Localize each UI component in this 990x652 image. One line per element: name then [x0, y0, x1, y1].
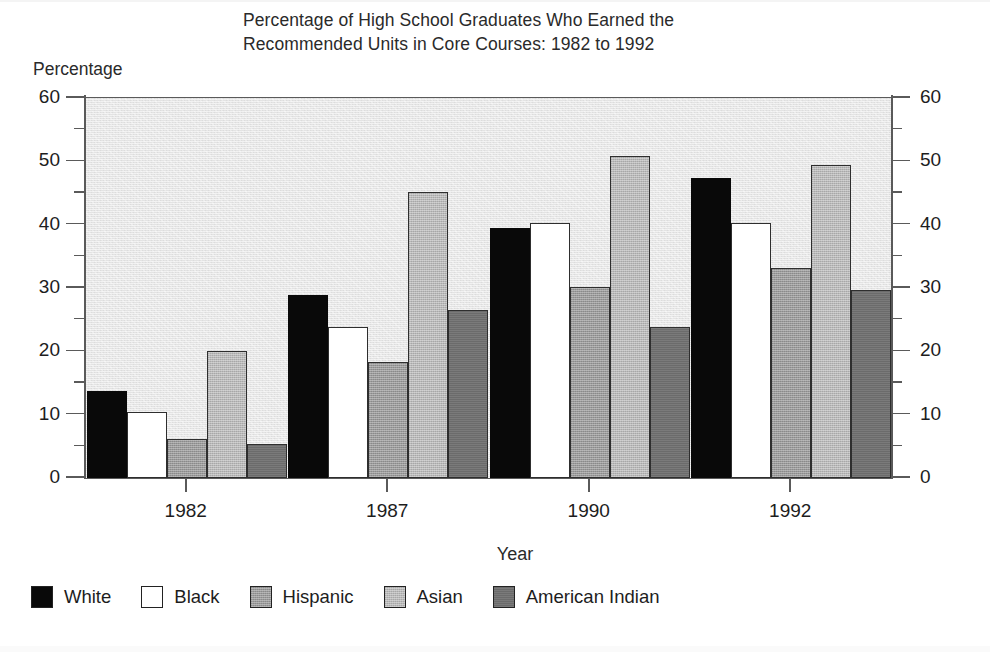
y-tick-minor-right-35	[891, 255, 902, 257]
bar-black-1982	[127, 412, 167, 478]
y-tick-label-right-10: 10	[920, 404, 941, 423]
chart-title-line-1: Percentage of High School Graduates Who …	[243, 8, 803, 32]
bars-container	[85, 98, 891, 478]
y-axis-title: Percentage	[33, 59, 123, 80]
bar-asian-1990	[610, 156, 650, 478]
y-tick-label-right-60: 60	[920, 87, 941, 106]
y-tick-minor-right-5	[891, 445, 902, 447]
bar-asian-1982	[207, 351, 247, 478]
y-tick-label-left-0: 0	[49, 467, 60, 486]
black-swatch	[31, 586, 53, 608]
y-tick-minor-right-45	[891, 191, 902, 193]
y-tick-label-left-40: 40	[39, 214, 60, 233]
y-tick-major-left-0	[66, 476, 85, 478]
y-tick-minor-right-25	[891, 318, 902, 320]
bar-black-1992	[731, 223, 771, 478]
bar-american-indian-1982	[247, 444, 287, 478]
bar-black-1987	[328, 327, 368, 478]
bar-group-1982	[87, 98, 287, 478]
bar-asian-1987	[408, 192, 448, 478]
bar-hispanic-1990	[570, 287, 610, 478]
bar-american-indian-1987	[448, 310, 488, 478]
legend-item-american-indian[interactable]: American Indian	[493, 586, 660, 608]
x-tick-label-1987: 1987	[366, 500, 408, 522]
bar-american-indian-1990	[650, 327, 690, 478]
bar-asian-1992	[811, 165, 851, 479]
legend-item-black[interactable]: Black	[141, 586, 219, 608]
legend-label-hispanic: Hispanic	[283, 586, 354, 608]
x-tick-1982	[185, 478, 187, 492]
y-tick-label-left-50: 50	[39, 150, 60, 169]
y-tick-major-right-40	[891, 223, 910, 225]
legend-item-hispanic[interactable]: Hispanic	[250, 586, 354, 608]
y-tick-major-left-10	[66, 413, 85, 415]
y-tick-minor-left-35	[74, 255, 85, 257]
legend-label-white: White	[64, 586, 111, 608]
y-tick-label-left-30: 30	[39, 277, 60, 296]
bar-white-1987	[288, 295, 328, 478]
legend-label-american-indian: American Indian	[526, 586, 660, 608]
y-tick-label-right-40: 40	[920, 214, 941, 233]
white-swatch	[141, 586, 163, 608]
chart-legend: WhiteBlackHispanicAsianAmerican Indian	[31, 586, 689, 608]
y-tick-major-right-10	[891, 413, 910, 415]
chart-title-line-2: Recommended Units in Core Courses: 1982 …	[243, 32, 803, 56]
bar-group-1992	[691, 98, 891, 478]
y-tick-major-left-30	[66, 286, 85, 288]
x-axis-title: Year	[0, 544, 990, 565]
light-gray-swatch	[384, 586, 406, 608]
dark-gray-swatch	[493, 586, 515, 608]
y-tick-major-right-0	[891, 476, 910, 478]
y-tick-minor-left-55	[74, 128, 85, 130]
y-tick-label-left-20: 20	[39, 340, 60, 359]
y-tick-label-left-60: 60	[39, 87, 60, 106]
y-tick-minor-left-15	[74, 381, 85, 383]
bar-black-1990	[530, 223, 570, 478]
bar-white-1990	[490, 228, 530, 478]
x-tick-label-1990: 1990	[568, 500, 610, 522]
y-tick-label-right-20: 20	[920, 340, 941, 359]
bar-hispanic-1982	[167, 439, 207, 478]
y-tick-minor-left-45	[74, 191, 85, 193]
bar-american-indian-1992	[851, 290, 891, 478]
bar-hispanic-1987	[368, 362, 408, 478]
y-tick-major-left-60	[66, 96, 85, 98]
chart-title: Percentage of High School Graduates Who …	[243, 8, 803, 56]
x-tick-1987	[386, 478, 388, 492]
y-tick-major-right-60	[891, 96, 910, 98]
y-tick-major-right-30	[891, 286, 910, 288]
bar-group-1990	[490, 98, 690, 478]
y-tick-minor-left-5	[74, 445, 85, 447]
bar-white-1982	[87, 391, 127, 478]
y-tick-minor-left-25	[74, 318, 85, 320]
y-tick-label-right-0: 0	[920, 467, 931, 486]
y-tick-major-left-20	[66, 350, 85, 352]
legend-item-asian[interactable]: Asian	[384, 586, 463, 608]
medium-gray-swatch	[250, 586, 272, 608]
y-tick-major-left-40	[66, 223, 85, 225]
y-tick-minor-right-15	[891, 381, 902, 383]
bar-white-1992	[691, 178, 731, 478]
x-tick-label-1982: 1982	[165, 500, 207, 522]
y-tick-major-right-20	[891, 350, 910, 352]
y-tick-label-left-10: 10	[39, 404, 60, 423]
y-tick-major-left-50	[66, 160, 85, 162]
y-tick-major-right-50	[891, 160, 910, 162]
x-tick-1990	[588, 478, 590, 492]
page-edge-top	[0, 0, 990, 2]
bar-hispanic-1992	[771, 268, 811, 478]
legend-label-asian: Asian	[417, 586, 463, 608]
y-tick-label-right-50: 50	[920, 150, 941, 169]
plot-area	[85, 97, 891, 479]
page-edge-bottom	[0, 646, 990, 652]
x-tick-1992	[789, 478, 791, 492]
legend-label-black: Black	[174, 586, 219, 608]
x-tick-label-1992: 1992	[769, 500, 811, 522]
y-tick-label-right-30: 30	[920, 277, 941, 296]
y-tick-minor-right-55	[891, 128, 902, 130]
bar-group-1987	[288, 98, 488, 478]
legend-item-white[interactable]: White	[31, 586, 111, 608]
